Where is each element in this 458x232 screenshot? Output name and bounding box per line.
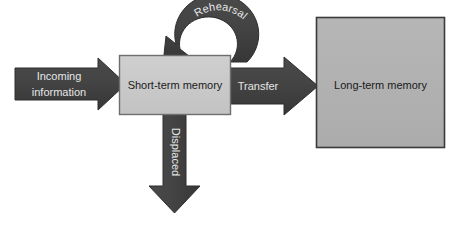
diagram-canvas: Displaced Rehearsal Transfer Incoming in…: [0, 0, 458, 232]
memory-model-diagram: Displaced Rehearsal Transfer Incoming in…: [0, 0, 458, 232]
long-term-memory-label: Long-term memory: [334, 79, 427, 91]
short-term-memory-label: Short-term memory: [128, 79, 223, 91]
incoming-information-label-line2: information: [32, 86, 86, 98]
node-long-term-memory[interactable]: Long-term memory: [317, 18, 445, 148]
arrow-rehearsal: Rehearsal: [163, 0, 259, 64]
arrow-transfer: Transfer: [226, 57, 318, 115]
arrow-incoming-information: Incoming information: [15, 58, 126, 110]
arrow-displaced: Displaced: [149, 108, 200, 213]
incoming-information-arrow-shape: [15, 58, 126, 110]
node-short-term-memory[interactable]: Short-term memory: [120, 56, 231, 115]
displaced-arrow-label: Displaced: [170, 128, 182, 176]
incoming-information-label-line1: Incoming: [37, 70, 82, 82]
transfer-arrow-label: Transfer: [238, 80, 279, 92]
